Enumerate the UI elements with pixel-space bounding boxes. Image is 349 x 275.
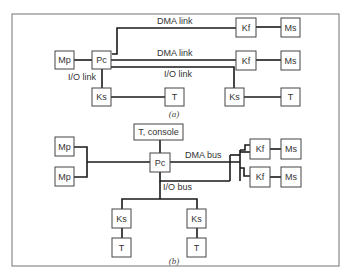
box-ks-right: Ks bbox=[225, 88, 244, 106]
diagram-a: DMA link DMA link I/O link I/O link Mp P… bbox=[55, 16, 300, 119]
box-ms-2-label: Ms bbox=[285, 56, 297, 66]
box-ms-1: Ms bbox=[281, 139, 301, 159]
box-ks-left: Ks bbox=[112, 209, 131, 228]
box-ms-2: Ms bbox=[281, 167, 301, 187]
box-mp-1-label: Mp bbox=[58, 142, 71, 152]
box-t-right-label: T bbox=[194, 243, 200, 253]
box-ms-1-label: Ms bbox=[285, 144, 297, 154]
box-t-right-label: T bbox=[288, 92, 294, 102]
box-ks-right: Ks bbox=[187, 209, 206, 228]
diagram-b: DMA bus I/O bus T, console Pc Mp Mp Kf M… bbox=[55, 124, 301, 266]
box-mp-2-label: Mp bbox=[58, 172, 71, 182]
dma-link-1-label: DMA link bbox=[157, 16, 193, 26]
caption-b: (b) bbox=[169, 256, 180, 266]
wire-ks-tree bbox=[122, 199, 197, 209]
box-kf-1: Kf bbox=[236, 18, 256, 37]
box-ks-left-label: Ks bbox=[116, 214, 127, 224]
box-ms-1: Ms bbox=[281, 18, 300, 37]
box-mp-2: Mp bbox=[55, 167, 74, 186]
box-t-console: T, console bbox=[134, 124, 183, 140]
box-pc: Pc bbox=[92, 51, 111, 69]
box-mp-1: Mp bbox=[55, 137, 74, 156]
box-t-left: T bbox=[112, 238, 131, 257]
box-kf-2-label: Kf bbox=[242, 56, 251, 66]
box-kf-1-label: Kf bbox=[256, 144, 265, 154]
box-ms-1-label: Ms bbox=[285, 23, 297, 33]
box-ks-right-label: Ks bbox=[191, 214, 202, 224]
box-t-left-label: T bbox=[172, 92, 178, 102]
io-link-left-label: I/O link bbox=[68, 72, 97, 82]
box-ks-left: Ks bbox=[92, 88, 111, 106]
dma-bus-label: DMA bus bbox=[185, 150, 222, 160]
io-bus-label: I/O bus bbox=[163, 182, 193, 192]
box-pc-label: Pc bbox=[155, 158, 166, 168]
box-kf-1-label: Kf bbox=[242, 23, 251, 33]
box-kf-2: Kf bbox=[236, 51, 256, 70]
box-ms-2-label: Ms bbox=[285, 172, 297, 182]
box-t-right: T bbox=[281, 88, 300, 106]
box-mp-label: Mp bbox=[58, 55, 71, 65]
caption-a: (a) bbox=[169, 109, 180, 119]
box-pc: Pc bbox=[150, 153, 170, 172]
box-t-right: T bbox=[187, 238, 206, 257]
box-ms-2: Ms bbox=[281, 51, 300, 70]
wire-mp-pair bbox=[74, 147, 87, 177]
wire-to-kf2 bbox=[240, 168, 250, 176]
box-mp: Mp bbox=[55, 51, 74, 69]
box-t-left: T bbox=[165, 88, 184, 106]
box-pc-label: Pc bbox=[96, 55, 107, 65]
box-kf-1: Kf bbox=[250, 139, 270, 159]
box-kf-2: Kf bbox=[250, 167, 270, 187]
wire-to-kf1-top bbox=[240, 145, 250, 150]
box-t-left-label: T bbox=[119, 243, 125, 253]
box-t-console-label: T, console bbox=[138, 127, 179, 137]
wire-io-bus bbox=[160, 172, 230, 181]
box-ks-left-label: Ks bbox=[96, 92, 107, 102]
io-link-right-label: I/O link bbox=[164, 69, 193, 79]
dma-link-2-label: DMA link bbox=[157, 48, 193, 58]
box-kf-2-label: Kf bbox=[256, 172, 265, 182]
computer-structure-diagram: DMA link DMA link I/O link I/O link Mp P… bbox=[0, 0, 349, 275]
box-ks-right-label: Ks bbox=[229, 92, 240, 102]
